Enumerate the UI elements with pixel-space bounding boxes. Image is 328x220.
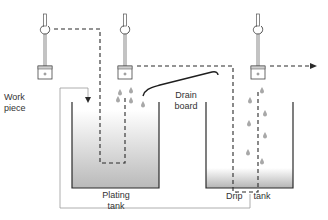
- plating-tank: [72, 102, 159, 188]
- label-drip-tank: Drip tank: [226, 191, 271, 202]
- label-plating-tank-line2: tank: [94, 201, 138, 212]
- label-drain-board: Drain board: [166, 90, 206, 112]
- label-work-piece: Work piece: [4, 92, 26, 114]
- drip-drops-middle: [116, 87, 145, 107]
- label-plating-tank: Plating tank: [94, 190, 138, 212]
- hook-workpiece-2: [118, 14, 132, 79]
- drip-tank: [206, 102, 293, 188]
- hook-workpiece-3: [251, 14, 265, 79]
- path-arrow-icon: [310, 63, 317, 69]
- label-drip-tank-word1: Drip: [226, 191, 243, 201]
- label-drain-board-line2: board: [166, 101, 206, 112]
- label-work-piece-line2: piece: [4, 103, 26, 114]
- hook-workpiece-1: [38, 14, 52, 79]
- plating-process-diagram: [0, 0, 328, 220]
- label-work-piece-line1: Work: [4, 92, 26, 103]
- label-drain-board-line1: Drain: [166, 90, 206, 101]
- label-plating-tank-line1: Plating: [94, 190, 138, 201]
- drip-drops-right: [246, 87, 267, 164]
- label-drip-tank-word2: tank: [254, 191, 271, 201]
- return-arrow-icon: [85, 97, 91, 103]
